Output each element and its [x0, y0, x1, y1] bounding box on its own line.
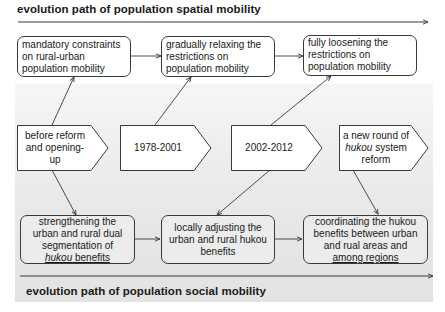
- box-text-line: among regions: [332, 252, 398, 264]
- box-text-line: segmentation of: [42, 240, 113, 252]
- period-text-line: hukou system: [345, 142, 407, 154]
- social-stage-3-box: coordinating the hukou benefits between …: [303, 215, 428, 264]
- period-before-reform: before reform and opening- up: [17, 125, 109, 171]
- box-text-line: hukou benefits: [45, 252, 110, 264]
- box-text-line: population mobility: [22, 63, 126, 75]
- box-text-line: urban and rural dual: [33, 228, 123, 240]
- box-text-line: fully loosening the: [308, 37, 412, 49]
- period-text-line: 2002-2012: [245, 142, 293, 154]
- box-text-line: population mobility: [166, 63, 270, 75]
- social-mobility-title: evolution path of population social mobi…: [26, 285, 266, 297]
- box-text-line: coordinating the hukou: [315, 216, 416, 228]
- box-text-line: urban and rural hukou: [169, 234, 267, 246]
- period-text-line: reform: [362, 154, 391, 166]
- box-text-line: population mobility: [308, 61, 412, 73]
- hukou-italic: hukou: [345, 142, 372, 153]
- box-text-line: and rual areas and: [324, 240, 407, 252]
- period-text-rest: system: [372, 142, 406, 153]
- period-text-line: and opening-: [26, 142, 84, 154]
- hukou-italic: hukou: [45, 252, 72, 263]
- box-text-line: locally adjusting the: [174, 222, 261, 234]
- period-text-line: before reform: [25, 130, 85, 142]
- box-text-line: gradually relaxing the: [166, 39, 270, 51]
- social-stage-1-box: strengthening the urban and rural dual s…: [20, 215, 135, 264]
- spatial-stage-1-box: mandatory constraints on rural-urban pop…: [17, 36, 131, 77]
- box-text-line: restrictions on: [166, 51, 270, 63]
- box-text-line: on rural-urban: [22, 51, 126, 63]
- box-text-line: strengthening the: [39, 216, 116, 228]
- period-2002-2012: 2002-2012: [231, 125, 323, 171]
- period-text-line: up: [49, 154, 60, 166]
- spatial-stage-3-box: fully loosening the restrictions on popu…: [303, 35, 417, 76]
- period-text-line: 1978-2001: [134, 142, 182, 154]
- spatial-stage-2-box: gradually relaxing the restrictions on p…: [161, 36, 275, 77]
- social-stage-2-box: locally adjusting the urban and rural hu…: [161, 215, 275, 264]
- period-1978-2001: 1978-2001: [120, 125, 212, 171]
- period-text-line: a new round of: [343, 130, 409, 142]
- box-text-rest: benefits: [72, 252, 110, 263]
- box-text-line: benefits between urban: [314, 228, 418, 240]
- box-text-line: benefits: [200, 246, 235, 258]
- box-text-line: restrictions on: [308, 49, 412, 61]
- box-text-line: mandatory constraints: [22, 39, 126, 51]
- period-new-hukou-reform: a new round of hukou system reform: [339, 125, 429, 171]
